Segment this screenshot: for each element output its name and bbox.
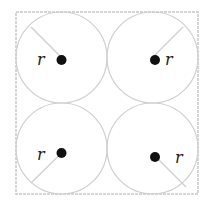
radius-line: [31, 27, 62, 58]
circle-bottom-right: r: [107, 103, 198, 194]
circles-in-square-diagram: r r r r: [0, 0, 209, 206]
radius-label: r: [37, 50, 46, 69]
circle-top-right: r: [107, 12, 198, 103]
radius-label: r: [175, 148, 184, 167]
center-dot: [150, 55, 160, 65]
radius-line: [31, 153, 62, 183]
radius-label: r: [165, 50, 174, 69]
center-dot: [57, 55, 67, 65]
center-dot: [150, 152, 160, 162]
center-dot: [57, 148, 67, 158]
circle-top-left: r: [16, 12, 107, 103]
circle-bottom-left: r: [16, 103, 107, 194]
radius-label: r: [37, 145, 46, 164]
